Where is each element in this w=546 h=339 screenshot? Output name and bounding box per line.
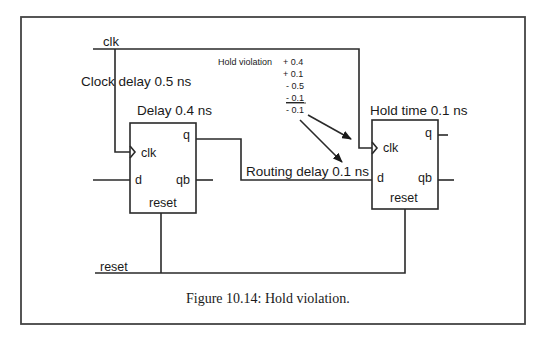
reset-wire [95,209,405,273]
hold-time-label: Hold time 0.1 ns [370,103,468,118]
ff1-d-pin: d [135,173,142,187]
hold-term-3: - 0.5 [286,81,304,91]
ff2-reset-pin: reset [390,191,418,205]
reset-signal-label: reset [100,260,128,274]
arrow-to-d-icon [300,120,342,162]
hold-term-1: + 0.4 [283,57,303,67]
routing-delay-label: Routing delay 0.1 ns [246,164,369,179]
hold-result: - 0.1 [286,105,304,115]
hold-violation-diagram: clk Clock delay 0.5 ns Delay 0.4 ns clk … [0,0,546,339]
hold-term-4: - 0.1 [286,93,304,103]
clk-delay-wire [115,49,130,152]
ff2-qb-pin: qb [418,171,432,185]
ff1-q-pin: q [183,128,190,142]
hold-term-2: + 0.1 [283,69,303,79]
ff1-qb-pin: qb [176,173,190,187]
ff2-q-pin: q [425,126,432,140]
figure-caption: Figure 10.14: Hold violation. [186,291,350,306]
ff1-reset-pin: reset [149,196,177,210]
ff1-clk-pin: clk [141,146,157,160]
clk-signal-label: clk [103,34,119,49]
clock-delay-label: Clock delay 0.5 ns [81,74,192,89]
ff2-d-pin: d [377,171,384,185]
ff1-delay-label: Delay 0.4 ns [137,103,212,118]
ff2-clk-pin: clk [383,141,399,155]
hold-violation-title: Hold violation [218,57,272,67]
